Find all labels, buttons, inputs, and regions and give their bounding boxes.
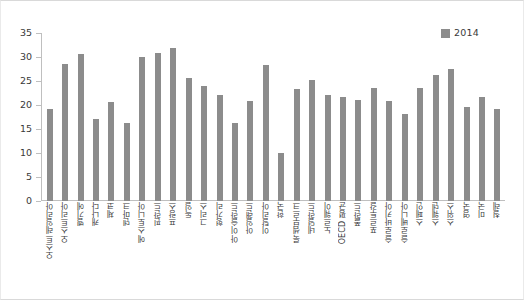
- bar-slot: [382, 33, 397, 201]
- bar: [155, 53, 161, 201]
- bar-slot: [258, 33, 273, 201]
- x-axis-label: 프랑스: [169, 202, 177, 226]
- bar: [494, 109, 500, 201]
- x-axis-label: 네덜란드: [308, 202, 316, 234]
- x-axis-label: 덴마크: [123, 202, 131, 226]
- bar-slot: [443, 33, 458, 201]
- bar: [448, 69, 454, 201]
- x-label-slot: 영국: [459, 202, 474, 297]
- y-tick-35: 35: [36, 33, 41, 34]
- x-label-slot: 에스토니아: [135, 202, 150, 297]
- bar: [402, 114, 408, 201]
- x-axis-label: 핀란드: [154, 202, 162, 226]
- x-label-slot: 아일랜드: [243, 202, 258, 297]
- x-label-slot: 룩셈부르크: [289, 202, 304, 297]
- x-label-slot: 노르웨이: [320, 202, 335, 297]
- bar-slot: [428, 33, 443, 201]
- x-axis-label: 헝가리: [216, 202, 224, 226]
- plot-area: 35302520151050: [41, 33, 505, 201]
- bar: [386, 101, 392, 201]
- x-axis-label: 오스트레일리아: [46, 202, 54, 259]
- y-tick-25: 25: [36, 81, 41, 82]
- bar: [217, 95, 223, 201]
- x-axis-label: 슬로바키아: [385, 202, 393, 243]
- bar-slot: [104, 33, 119, 201]
- y-tick-label-20: 20: [20, 98, 32, 111]
- x-label-slot: 이탈리아: [258, 202, 273, 297]
- x-label-slot: 핀란드: [150, 202, 165, 297]
- bar-slot: [320, 33, 335, 201]
- x-axis-label: OECD 평균: [339, 202, 347, 244]
- x-label-slot: 프랑스: [166, 202, 181, 297]
- x-label-slot: 그리스: [196, 202, 211, 297]
- x-axis-label: 이탈리아: [262, 202, 270, 234]
- x-label-slot: 포르투갈: [366, 202, 381, 297]
- x-axis-label: 아이슬란드: [231, 202, 239, 243]
- x-axis-label: 스페인: [416, 202, 424, 226]
- bar-slot: [274, 33, 289, 201]
- x-label-slot: 오스트리아: [57, 202, 72, 297]
- bar: [62, 64, 68, 201]
- x-axis-labels: 오스트레일리아오스트리아벨기에캐나다체코덴마크에스토니아핀란드프랑스독일그리스헝…: [42, 202, 505, 297]
- bar: [309, 80, 315, 201]
- x-axis-label: 룩셈부르크: [293, 202, 301, 243]
- bar: [464, 107, 470, 201]
- x-label-slot: 벨기에: [73, 202, 88, 297]
- bar-group: [42, 33, 505, 201]
- bar: [278, 153, 284, 201]
- x-axis-label: 스웨덴: [432, 202, 440, 226]
- x-axis-label: 슬로베니아: [401, 202, 409, 243]
- y-tick-label-15: 15: [20, 122, 32, 135]
- y-tick-10: 10: [36, 153, 41, 154]
- y-tick-label-5: 5: [26, 170, 32, 183]
- bar-slot: [351, 33, 366, 201]
- y-tick-label-30: 30: [20, 50, 32, 63]
- x-axis-label: 아일랜드: [246, 202, 254, 234]
- bar: [355, 100, 361, 201]
- x-label-slot: 아이슬란드: [227, 202, 242, 297]
- bar: [325, 95, 331, 201]
- x-axis-label: 체코: [107, 202, 115, 218]
- bar: [201, 86, 207, 201]
- bar: [93, 119, 99, 201]
- x-axis-label: 한국: [277, 202, 285, 218]
- bar: [78, 54, 84, 201]
- x-label-slot: 폴란드: [351, 202, 366, 297]
- bar-slot: [366, 33, 381, 201]
- x-label-slot: 스웨덴: [428, 202, 443, 297]
- bar: [340, 97, 346, 201]
- y-tick-15: 15: [36, 129, 41, 130]
- bar-slot: [150, 33, 165, 201]
- x-label-slot: 덴마크: [119, 202, 134, 297]
- bar-slot: [88, 33, 103, 201]
- x-label-slot: 체코: [104, 202, 119, 297]
- x-label-slot: 헝가리: [212, 202, 227, 297]
- bar-slot: [181, 33, 196, 201]
- bar: [139, 57, 145, 201]
- x-axis-label: 에스토니아: [138, 202, 146, 243]
- x-label-slot: 칠레: [490, 202, 505, 297]
- x-label-slot: 슬로바키아: [382, 202, 397, 297]
- x-axis-label: 칠레: [493, 202, 501, 218]
- bar-slot: [335, 33, 350, 201]
- bar-slot: [413, 33, 428, 201]
- x-label-slot: 슬로베니아: [397, 202, 412, 297]
- bar-slot: [227, 33, 242, 201]
- bar-slot: [459, 33, 474, 201]
- bar-slot: [289, 33, 304, 201]
- bar-slot: [166, 33, 181, 201]
- x-axis-label: 오스트리아: [61, 202, 69, 243]
- x-label-slot: 스페인: [413, 202, 428, 297]
- x-axis-label: 스위스: [447, 202, 455, 226]
- y-tick-30: 30: [36, 57, 41, 58]
- bar: [186, 78, 192, 201]
- bar: [108, 102, 114, 201]
- bar-slot: [304, 33, 319, 201]
- x-axis-label: 영국: [463, 202, 471, 218]
- bar: [479, 97, 485, 201]
- y-tick-0: 0: [36, 201, 41, 202]
- y-tick-20: 20: [36, 105, 41, 106]
- y-tick-5: 5: [36, 177, 41, 178]
- bar: [247, 101, 253, 201]
- bar: [263, 65, 269, 201]
